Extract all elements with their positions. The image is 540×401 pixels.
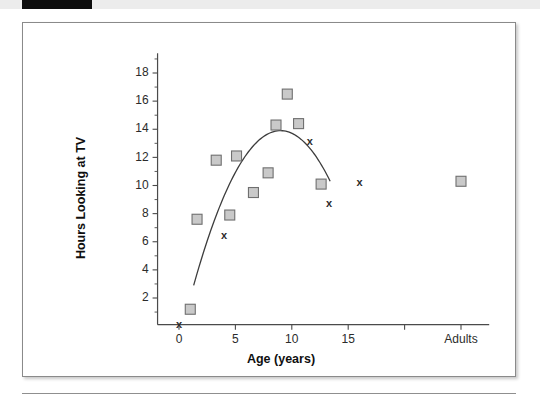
- x-tick-labels: 051015Adults: [176, 332, 478, 346]
- x-axis-title: Age (years): [247, 352, 315, 366]
- y-tick-label: 18: [135, 65, 149, 79]
- x-tick-label: 10: [285, 332, 299, 346]
- data-point-x: x: [326, 197, 333, 209]
- data-point-square: [185, 304, 195, 314]
- data-point-x: x: [221, 229, 228, 241]
- data-point-square: [456, 176, 466, 186]
- y-axis-title: Hours Looking at TV: [74, 136, 88, 259]
- data-point-square: [232, 151, 242, 161]
- x-tick-label: 15: [342, 332, 356, 346]
- data-point-square: [271, 120, 281, 130]
- quadratic-fit-curve: [194, 131, 330, 286]
- y-tick-label: 12: [135, 150, 149, 164]
- x-data-points: xxxxx: [176, 135, 363, 331]
- x-tick-label: 5: [232, 332, 239, 346]
- bottom-divider: [22, 393, 516, 394]
- y-tick-label: 4: [142, 262, 149, 276]
- header-black-block: [22, 0, 92, 9]
- data-point-square: [192, 214, 202, 224]
- x-tick-label: Adults: [444, 332, 477, 346]
- data-point-square: [225, 210, 235, 220]
- data-point-square: [294, 119, 304, 129]
- data-point-x: x: [176, 318, 183, 330]
- data-point-square: [211, 155, 221, 165]
- y-tick-label: 8: [142, 206, 149, 220]
- axis-ticks: [153, 59, 461, 330]
- y-tick-labels: 24681012141618: [135, 65, 149, 304]
- data-point-square: [263, 168, 273, 178]
- x-tick-label: 0: [176, 332, 183, 346]
- y-tick-label: 16: [135, 93, 149, 107]
- y-tick-label: 10: [135, 178, 149, 192]
- data-point-square: [282, 89, 292, 99]
- fit-curve: [194, 131, 330, 286]
- y-tick-label: 2: [142, 290, 149, 304]
- data-point-x: x: [356, 176, 363, 188]
- scatter-plot: 24681012141618 051015Adults xxxxx Age (y…: [23, 23, 515, 376]
- data-point-square: [316, 179, 326, 189]
- data-point-x: x: [307, 135, 314, 147]
- chart-frame: 24681012141618 051015Adults xxxxx Age (y…: [22, 22, 516, 377]
- data-point-square: [248, 188, 258, 198]
- y-tick-label: 14: [135, 121, 149, 135]
- y-tick-label: 6: [142, 234, 149, 248]
